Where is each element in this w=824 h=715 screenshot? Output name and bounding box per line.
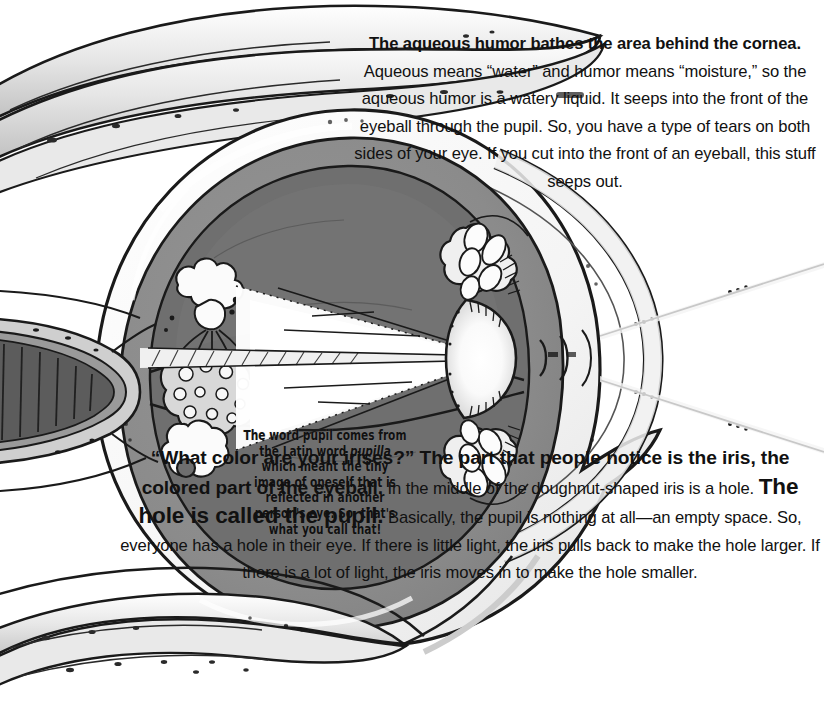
aqueous-humor-bold-lead: The aqueous humor bathes the area behind… bbox=[369, 34, 801, 53]
aqueous-humor-body: Aqueous means “water” and humor means “m… bbox=[354, 62, 815, 191]
iris-body-first: In the middle of the doughnut-shaped iri… bbox=[388, 479, 755, 498]
iris-and-pupil-paragraph: “What color are your irises?” The part t… bbox=[120, 444, 820, 587]
book-page: The aqueous humor bathes the area behind… bbox=[0, 0, 824, 715]
aqueous-humor-paragraph: The aqueous humor bathes the area behind… bbox=[352, 30, 818, 195]
